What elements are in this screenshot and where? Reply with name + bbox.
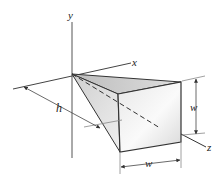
w-vertical-label: w [190,101,198,113]
z-axis-label: z [206,141,212,153]
pyramid-diagram: y x z h w w [0,0,224,182]
w-horizontal-label: w [145,157,153,169]
y-axis-label: y [67,9,73,21]
pyramid [72,74,181,152]
pyramid-base-face [118,82,181,152]
h-label: h [56,101,62,115]
x-axis-label: x [131,56,137,68]
